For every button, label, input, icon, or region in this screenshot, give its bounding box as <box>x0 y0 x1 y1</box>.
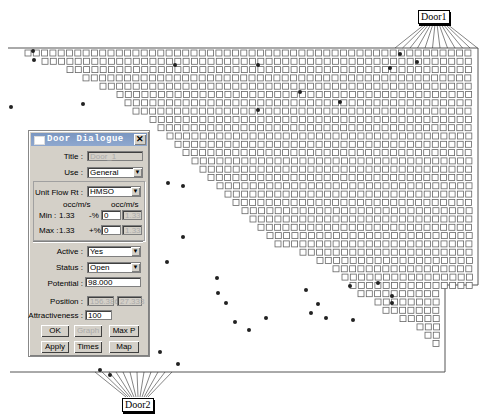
graph-button[interactable]: Graph <box>74 325 102 337</box>
grid-cell <box>340 50 346 56</box>
grid-cell <box>383 216 389 222</box>
occupant-dot <box>98 368 102 372</box>
grid-cell <box>183 100 189 106</box>
grid-cell <box>84 67 90 73</box>
grid-cell <box>291 92 297 98</box>
grid-cell <box>308 241 314 247</box>
grid-cell <box>225 83 231 89</box>
grid-cell <box>465 58 471 64</box>
grid-cell <box>424 216 430 222</box>
grid-cell <box>350 183 356 189</box>
grid-cell <box>392 274 398 280</box>
grid-cell <box>333 266 339 272</box>
grid-cell <box>83 75 89 81</box>
grid-cell <box>158 100 164 106</box>
grid-cell <box>400 158 406 164</box>
position-y-field: 27.333 <box>117 296 142 306</box>
grid-cell <box>432 150 438 156</box>
grid-cell <box>432 125 438 131</box>
grid-cell <box>458 183 464 189</box>
grid-cell <box>432 199 438 205</box>
grid-cell <box>374 150 380 156</box>
grid-cell <box>399 150 405 156</box>
grid-cell <box>390 75 396 81</box>
grid-cell <box>84 58 90 64</box>
grid-cell <box>449 191 455 197</box>
door1-line <box>395 24 425 48</box>
grid-cell <box>275 241 281 247</box>
grid-cell <box>283 183 289 189</box>
map-button[interactable]: Map <box>109 341 139 353</box>
grid-cell <box>275 92 281 98</box>
min-pct-field[interactable]: 0 <box>101 210 121 220</box>
grid-cell <box>274 108 280 114</box>
grid-cell <box>183 75 189 81</box>
grid-cell <box>375 183 381 189</box>
unit-flow-select[interactable]: HMSO ▼ <box>87 186 141 197</box>
grid-cell <box>208 100 214 106</box>
grid-cell <box>374 175 380 181</box>
grid-cell <box>366 158 372 164</box>
grid-cell <box>316 50 322 56</box>
max-pct-field[interactable]: 0 <box>101 225 121 235</box>
grid-cell <box>425 332 431 338</box>
grid-cell <box>416 133 422 139</box>
grid-cell <box>416 100 422 106</box>
occupant-dot <box>216 291 220 295</box>
attractiveness-field[interactable]: 100 <box>85 310 112 320</box>
grid-cell <box>416 166 422 172</box>
grid-cell <box>433 299 439 305</box>
chevron-down-icon[interactable]: ▼ <box>131 247 140 256</box>
max-p-button[interactable]: Max P <box>109 325 139 337</box>
grid-cell <box>250 67 256 73</box>
grid-cell <box>417 274 423 280</box>
occupant-dot <box>181 235 185 239</box>
grid-cell <box>424 100 430 106</box>
grid-cell <box>358 291 364 297</box>
grid-cell <box>133 58 139 64</box>
chevron-down-icon[interactable]: ▼ <box>131 263 140 272</box>
grid-cell <box>175 133 181 139</box>
times-button[interactable]: Times <box>74 341 102 353</box>
status-select[interactable]: Open ▼ <box>87 262 141 273</box>
grid-cell <box>274 175 280 181</box>
use-select[interactable]: General ▼ <box>87 167 143 178</box>
grid-cell <box>158 50 164 56</box>
grid-cell <box>183 92 189 98</box>
close-icon[interactable]: ✕ <box>134 134 146 145</box>
grid-cell <box>408 316 414 322</box>
ok-button[interactable]: OK <box>41 325 69 337</box>
grid-cell <box>399 116 405 122</box>
grid-cell <box>341 158 347 164</box>
grid-cell <box>374 58 380 64</box>
grid-cell <box>374 125 380 131</box>
grid-cell <box>125 50 131 56</box>
chevron-down-icon[interactable]: ▼ <box>133 168 142 177</box>
grid-cell <box>308 100 314 106</box>
grid-cell <box>324 83 330 89</box>
grid-cell <box>441 249 447 255</box>
grid-cell <box>358 224 364 230</box>
grid-cell <box>299 108 305 114</box>
grid-cell <box>325 208 331 214</box>
grid-cell <box>224 50 230 56</box>
grid-cell <box>416 291 422 297</box>
grid-cell <box>234 183 240 189</box>
grid-cell <box>291 67 297 73</box>
grid-cell <box>333 175 339 181</box>
grid-cell <box>291 166 297 172</box>
door1-label[interactable]: Door1 <box>418 10 450 24</box>
chevron-down-icon[interactable]: ▼ <box>131 187 140 196</box>
apply-button[interactable]: Apply <box>41 341 69 353</box>
grid-cell <box>391 208 397 214</box>
grid-cell <box>191 83 197 89</box>
active-select[interactable]: Yes ▼ <box>87 246 141 257</box>
grid-cell <box>142 83 148 89</box>
title-field[interactable]: Door_1 <box>87 151 143 161</box>
grid-cell <box>316 83 322 89</box>
potential-field[interactable]: 98.000 <box>85 277 141 287</box>
grid-cell <box>332 150 338 156</box>
door2-label[interactable]: Door2 <box>122 398 154 412</box>
dialog-titlebar[interactable]: Door Dialogue ✕ <box>31 133 147 146</box>
grid-cell <box>191 125 197 131</box>
